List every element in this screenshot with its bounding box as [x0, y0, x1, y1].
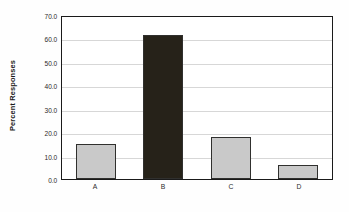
y-axis-tick-label: 30.0 [45, 106, 57, 113]
bar-chart-figure: Percent Responses 0.010.020.030.040.050.… [0, 0, 349, 212]
y-axis-tick-label: 50.0 [45, 59, 57, 66]
x-axis-tick-label: C [197, 183, 265, 201]
y-axis-tick-label: 40.0 [45, 83, 57, 90]
bar-slot [265, 17, 333, 179]
x-axis-tick-labels: ABCD [61, 183, 333, 201]
x-axis-tick-label: D [265, 183, 333, 201]
y-axis-tick-labels: 0.010.020.030.040.050.060.070.0 [24, 16, 60, 180]
bar-slot [62, 17, 130, 179]
y-axis-tick-label: 0.0 [48, 177, 57, 184]
x-axis-tick-label: B [129, 183, 197, 201]
y-axis-title-text: Percent Responses [9, 59, 18, 130]
bar-b[interactable] [143, 35, 183, 179]
plot-area [61, 16, 333, 180]
bar-a[interactable] [76, 144, 116, 179]
bar-c[interactable] [211, 137, 251, 179]
y-axis-tick-label: 60.0 [45, 36, 57, 43]
y-axis-tick-label: 20.0 [45, 130, 57, 137]
x-axis-tick-label: A [61, 183, 129, 201]
bar-slot [130, 17, 198, 179]
bar-d[interactable] [278, 165, 318, 179]
bars-group [62, 17, 332, 179]
y-axis-tick-label: 10.0 [45, 153, 57, 160]
y-axis-tick-label: 70.0 [45, 13, 57, 20]
y-axis-title: Percent Responses [0, 0, 26, 190]
bar-slot [197, 17, 265, 179]
